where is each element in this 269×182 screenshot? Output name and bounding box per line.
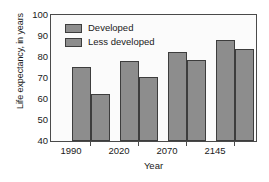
- bar-less-developed-2020: [139, 77, 158, 141]
- y-tick-label-60: 60: [24, 94, 48, 104]
- y-tick-label-90: 90: [24, 31, 48, 41]
- x-tick-label-2020: 2020: [94, 146, 144, 156]
- x-axis-title: Year: [50, 160, 257, 171]
- y-tick-label-100: 100: [24, 10, 48, 20]
- plot-area: Developed Less developed: [50, 14, 257, 142]
- bar-less-developed-2070: [187, 60, 206, 141]
- y-tick-label-40: 40: [24, 136, 48, 146]
- bar-developed-2020: [120, 61, 139, 141]
- bar-group-2020: [120, 15, 158, 141]
- bar-group-1990: [72, 15, 110, 141]
- y-tick-label-70: 70: [24, 73, 48, 83]
- bar-group-2070: [168, 15, 206, 141]
- bar-less-developed-1990: [91, 94, 110, 141]
- bar-group-2145: [216, 15, 254, 141]
- bar-developed-2145: [216, 40, 235, 141]
- bar-developed-1990: [72, 67, 91, 141]
- bar-chart-figure: Life expectancy, in years 100 90 80 70 6…: [0, 0, 269, 182]
- y-tick-label-80: 80: [24, 52, 48, 62]
- x-tick-label-1990: 1990: [46, 146, 96, 156]
- x-tick-label-2145: 2145: [190, 146, 240, 156]
- bar-less-developed-2145: [235, 49, 254, 141]
- x-tick-label-2070: 2070: [142, 146, 192, 156]
- bar-developed-2070: [168, 52, 187, 141]
- y-tick-label-50: 50: [24, 115, 48, 125]
